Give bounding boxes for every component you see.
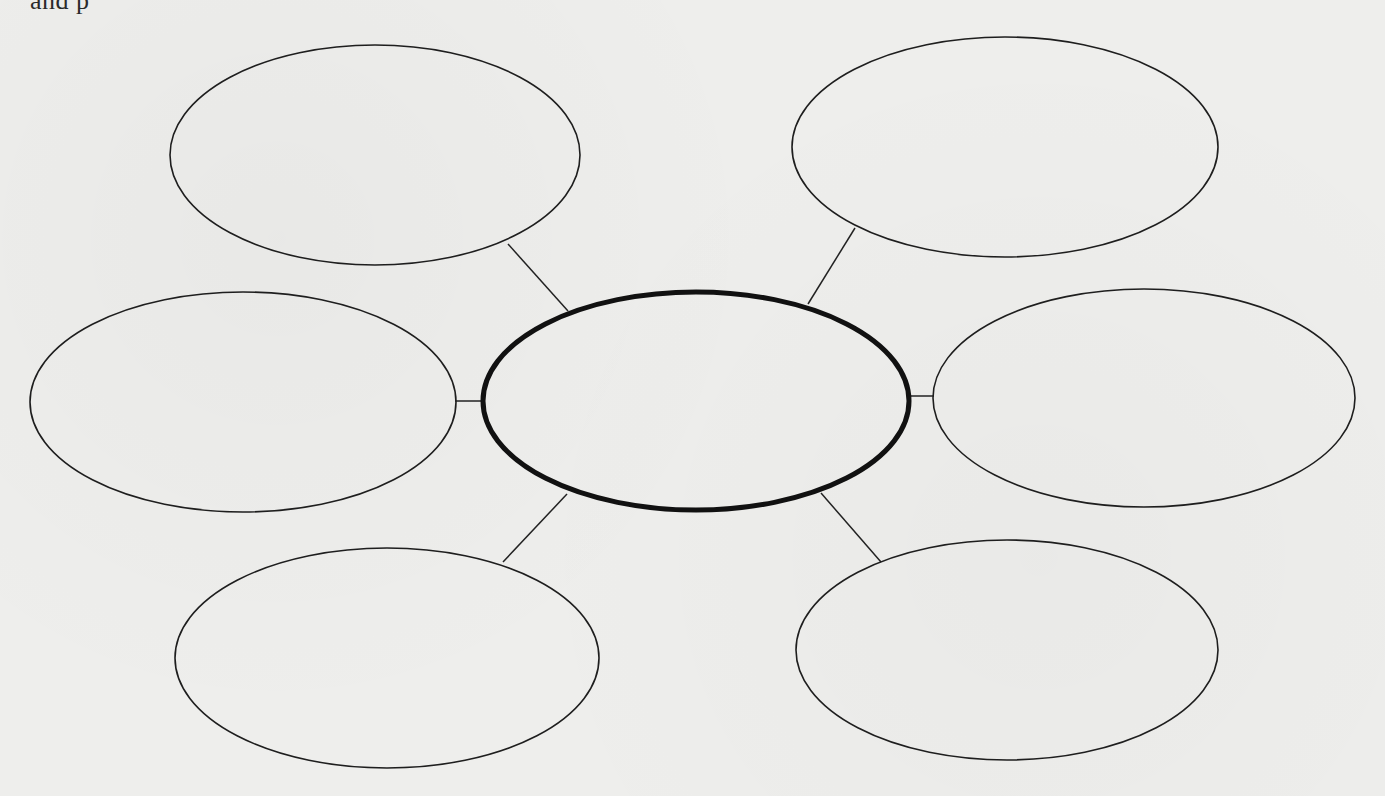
node-bottom-left[interactable] <box>175 548 599 768</box>
node-bottom-right-ellipse[interactable] <box>796 540 1218 760</box>
node-top-left-ellipse[interactable] <box>170 45 580 265</box>
center-node[interactable] <box>483 292 909 510</box>
node-middle-left-ellipse[interactable] <box>30 292 456 512</box>
center-node-group <box>483 292 909 510</box>
node-top-right-ellipse[interactable] <box>792 37 1218 257</box>
node-bottom-left-ellipse[interactable] <box>175 548 599 768</box>
node-middle-left[interactable] <box>30 292 456 512</box>
node-middle-right-ellipse[interactable] <box>933 289 1355 507</box>
worksheet-page: and p <box>0 0 1385 796</box>
node-top-right[interactable] <box>792 37 1218 257</box>
connector-top-left-to-center <box>508 244 568 311</box>
center-node-ellipse[interactable] <box>483 292 909 510</box>
node-bottom-right[interactable] <box>796 540 1218 760</box>
connector-bottom-right-to-center <box>821 493 881 562</box>
node-top-left[interactable] <box>170 45 580 265</box>
connector-top-right-to-center <box>808 228 855 304</box>
concept-web-diagram <box>0 0 1385 796</box>
connector-bottom-left-to-center <box>503 494 567 562</box>
node-middle-right[interactable] <box>933 289 1355 507</box>
